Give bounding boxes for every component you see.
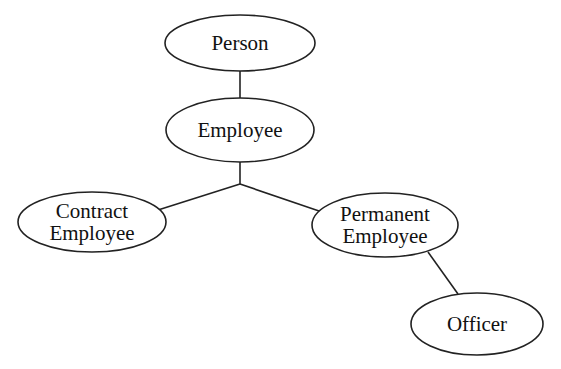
edge-junction-to-permanent-employee [240, 184, 322, 212]
node-label: Person [211, 31, 269, 55]
node-employee: Employee [166, 98, 314, 162]
nodes-group: PersonEmployeeContractEmployeePermanentE… [18, 15, 543, 355]
node-permanent-employee: PermanentEmployee [312, 193, 458, 257]
node-label: Employee [342, 224, 427, 248]
node-officer: Officer [411, 293, 543, 355]
edge-junction-to-contract-employee [158, 184, 240, 210]
node-person: Person [165, 15, 315, 71]
node-label: Officer [447, 312, 507, 336]
edge-permanent-employee-to-officer [428, 252, 458, 294]
class-hierarchy-diagram: PersonEmployeeContractEmployeePermanentE… [0, 0, 561, 369]
node-label: Employee [49, 221, 134, 245]
node-label: Employee [197, 118, 282, 142]
node-contract-employee: ContractEmployee [18, 192, 166, 252]
node-label: Contract [56, 199, 128, 223]
node-label: Permanent [340, 202, 430, 226]
